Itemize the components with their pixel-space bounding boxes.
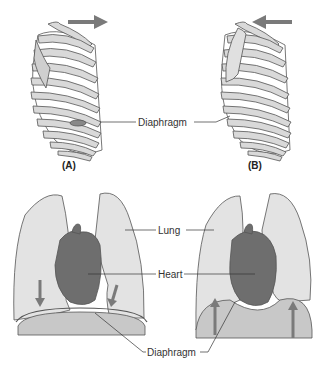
breathing-diagram — [0, 0, 323, 368]
arrow-right-icon — [68, 15, 108, 29]
diaphragm-label-bottom: Diaphragm — [147, 347, 196, 358]
arrow-left-icon — [252, 15, 292, 29]
thorax-right — [196, 194, 312, 338]
panel-label-b: (B) — [248, 160, 262, 171]
rib-cage-b — [221, 22, 291, 161]
panel-label-a: (A) — [62, 160, 76, 171]
heart-label: Heart — [158, 269, 182, 280]
diaphragm-label-top: Diaphragm — [138, 117, 187, 128]
lung-label: Lung — [158, 225, 180, 236]
rib-cage-a — [31, 22, 102, 161]
thorax-left — [14, 193, 147, 335]
